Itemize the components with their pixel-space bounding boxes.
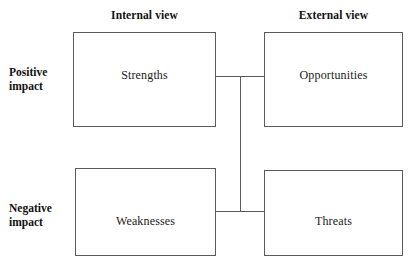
row-label-positive-line2: impact — [9, 80, 75, 94]
quadrant-box-opportunities: Opportunities — [264, 32, 403, 127]
row-label-negative-impact: Negative impact — [9, 202, 75, 229]
row-label-positive-impact: Positive impact — [9, 66, 75, 93]
quadrant-label-opportunities: Opportunities — [300, 68, 368, 83]
connector-line-vertical-spine — [240, 76, 241, 212]
column-header-internal: Internal view — [73, 9, 216, 21]
quadrant-box-strengths: Strengths — [73, 32, 216, 127]
row-label-negative-line2: impact — [9, 216, 75, 230]
row-label-negative-line1: Negative — [9, 202, 75, 216]
quadrant-label-strengths: Strengths — [121, 68, 168, 83]
quadrant-label-weaknesses: Weaknesses — [116, 214, 175, 229]
quadrant-box-weaknesses: Weaknesses — [75, 168, 216, 256]
column-header-external: External view — [264, 9, 403, 21]
swot-diagram: Internal view External view Positive imp… — [0, 0, 415, 269]
row-label-positive-line1: Positive — [9, 66, 75, 80]
quadrant-label-threats: Threats — [315, 214, 352, 229]
quadrant-box-threats: Threats — [264, 170, 403, 256]
